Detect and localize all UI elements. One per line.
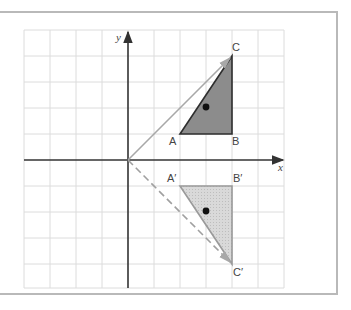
marked-point-original <box>203 104 210 111</box>
vertex-label-c: C <box>232 41 240 53</box>
coordinate-diagram: y x A B C A′ B′ C′ <box>0 0 351 310</box>
y-axis-label: y <box>115 31 121 43</box>
vertex-label-a: A <box>169 135 177 147</box>
vertex-label-b-prime: B′ <box>233 172 242 184</box>
vertex-label-b: B <box>232 135 239 147</box>
x-axis-label: x <box>277 161 283 173</box>
grid <box>24 30 284 288</box>
vertex-label-a-prime: A′ <box>167 172 176 184</box>
vertex-label-c-prime: C′ <box>233 266 243 278</box>
marked-point-image <box>203 208 210 215</box>
